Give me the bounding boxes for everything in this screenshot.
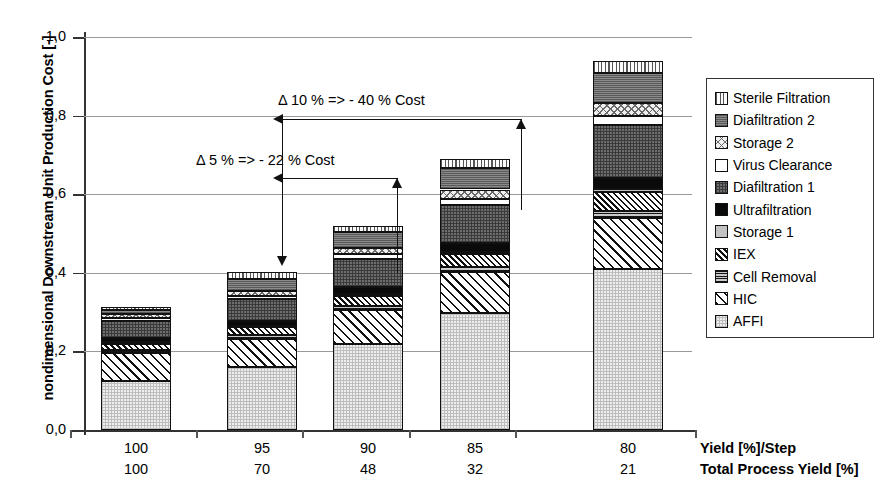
annotation-label-delta-10: Δ 10 % => - 40 % Cost <box>278 92 425 108</box>
bar-segment-virus-clearance[interactable] <box>593 116 663 125</box>
bar-segment-diafiltration-1[interactable] <box>227 299 297 321</box>
bar-segment-storage-1[interactable] <box>333 294 403 296</box>
annotation-2-horizontal-line <box>282 178 398 179</box>
bar-segment-diafiltration-2[interactable] <box>593 73 663 103</box>
bar-segment-hic[interactable] <box>440 272 510 312</box>
bar-stack[interactable] <box>440 159 510 430</box>
bar-segment-virus-clearance[interactable] <box>227 296 297 300</box>
bar-segment-iex[interactable] <box>593 192 663 210</box>
x-axis-tick-label-total-yield: 48 <box>328 461 408 477</box>
bar-segment-affi[interactable] <box>333 344 403 430</box>
bar-segment-sterile-filtration[interactable] <box>101 307 171 310</box>
bar-segment-storage-2[interactable] <box>101 314 171 318</box>
legend-swatch-icon <box>715 292 728 305</box>
bar-segment-diafiltration-1[interactable] <box>333 259 403 287</box>
bar-segment-diafiltration-2[interactable] <box>227 279 297 291</box>
bar-segment-ultrafiltration[interactable] <box>593 178 663 189</box>
x-axis-tick <box>196 430 198 438</box>
bar-segment-diafiltration-1[interactable] <box>593 125 663 178</box>
x-axis-tick-label-yield-step: 95 <box>222 440 302 456</box>
bar-segment-affi[interactable] <box>593 269 663 430</box>
bar-segment-diafiltration-2[interactable] <box>101 310 171 315</box>
annotation-label-delta-5: Δ 5 % => - 22 % Cost <box>196 152 335 168</box>
legend-item-label: Storage 2 <box>733 136 794 150</box>
legend-item[interactable]: Virus Clearance <box>715 154 868 176</box>
bar-segment-storage-1[interactable] <box>593 189 663 192</box>
legend-item-label: Diafiltration 1 <box>733 180 815 194</box>
bar-segment-storage-1[interactable] <box>440 252 510 254</box>
bar-segment-virus-clearance[interactable] <box>440 199 510 205</box>
bar-segment-diafiltration-2[interactable] <box>333 232 403 248</box>
bar-segment-ultrafiltration[interactable] <box>440 243 510 251</box>
legend-item[interactable]: Cell Removal <box>715 265 868 287</box>
bar-segment-affi[interactable] <box>227 367 297 430</box>
bar-segment-storage-2[interactable] <box>440 190 510 199</box>
y-axis-title: nondimensional Downstream Unit Productio… <box>40 18 56 418</box>
x-axis-tick <box>70 430 72 438</box>
bar-segment-affi[interactable] <box>440 313 510 430</box>
legend-item[interactable]: IEX <box>715 243 868 265</box>
bar-stack[interactable] <box>593 61 663 430</box>
x-axis-tick <box>302 430 304 438</box>
x-axis-tick-label-yield-step: 90 <box>328 440 408 456</box>
bar-stack[interactable] <box>101 307 171 430</box>
bar-segment-ultrafiltration[interactable] <box>101 338 171 342</box>
legend-item[interactable]: Sterile Filtration <box>715 87 868 109</box>
annotation-1-vertical-line <box>521 119 522 210</box>
x-axis-tick <box>695 430 697 438</box>
bar-segment-hic[interactable] <box>227 339 297 367</box>
legend-item-label: Diafiltration 2 <box>733 113 815 127</box>
x-axis-tick <box>409 430 411 438</box>
annotation-1-up-arrowhead <box>516 119 526 129</box>
bar-segment-iex[interactable] <box>333 296 403 306</box>
x-axis-tick <box>515 430 517 438</box>
x-axis-title-primary: Yield [%]/Step <box>700 440 796 456</box>
bar-segment-virus-clearance[interactable] <box>101 318 171 321</box>
bar-segment-hic[interactable] <box>101 353 171 381</box>
bar-segment-cell-removal[interactable] <box>101 350 171 353</box>
bar-segment-diafiltration-1[interactable] <box>101 321 171 338</box>
bar-segment-storage-2[interactable] <box>593 103 663 116</box>
legend-item[interactable]: Diafiltration 1 <box>715 176 868 198</box>
x-axis-tick-label-yield-step: 85 <box>435 440 515 456</box>
bar-segment-iex[interactable] <box>227 327 297 335</box>
bar-segment-sterile-filtration[interactable] <box>593 61 663 74</box>
legend-item[interactable]: Ultrafiltration <box>715 198 868 220</box>
legend-item[interactable]: Diafiltration 2 <box>715 109 868 131</box>
legend-box: Sterile FiltrationDiafiltration 2Storage… <box>706 78 874 338</box>
annotation-down-arrowhead <box>277 256 287 266</box>
bar-segment-cell-removal[interactable] <box>227 335 297 339</box>
bar-segment-cell-removal[interactable] <box>593 211 663 218</box>
bar-segment-hic[interactable] <box>593 218 663 269</box>
legend-item[interactable]: HIC <box>715 288 868 310</box>
bar-segment-ultrafiltration[interactable] <box>227 321 297 326</box>
bar-segment-diafiltration-1[interactable] <box>440 205 510 244</box>
annotation-shared-vertical-rail <box>282 119 283 256</box>
legend-item[interactable]: Storage 2 <box>715 132 868 154</box>
legend-item-label: AFFI <box>733 314 763 328</box>
bar-stack[interactable] <box>333 226 403 430</box>
x-axis-tick-label-total-yield: 21 <box>588 461 668 477</box>
bar-stack[interactable] <box>227 272 297 430</box>
bar-segment-storage-2[interactable] <box>333 248 403 255</box>
bar-segment-diafiltration-2[interactable] <box>440 168 510 190</box>
bar-segment-storage-2[interactable] <box>227 291 297 296</box>
bar-segment-iex[interactable] <box>101 344 171 350</box>
bar-segment-sterile-filtration[interactable] <box>333 226 403 232</box>
legend-swatch-icon <box>715 270 728 283</box>
legend-item[interactable]: AFFI <box>715 310 868 332</box>
bar-segment-sterile-filtration[interactable] <box>440 159 510 168</box>
bar-segment-sterile-filtration[interactable] <box>227 272 297 278</box>
bar-segment-cell-removal[interactable] <box>333 306 403 310</box>
bar-segment-ultrafiltration[interactable] <box>333 287 403 293</box>
bar-segment-iex[interactable] <box>440 254 510 267</box>
x-axis-title-secondary: Total Process Yield [%] <box>700 461 858 477</box>
bar-segment-virus-clearance[interactable] <box>333 254 403 259</box>
legend-item-label: HIC <box>733 292 757 306</box>
bar-segment-hic[interactable] <box>333 310 403 343</box>
x-axis-line <box>70 430 695 432</box>
legend-item-label: Ultrafiltration <box>733 203 812 217</box>
legend-item[interactable]: Storage 1 <box>715 221 868 243</box>
bar-segment-affi[interactable] <box>101 381 171 430</box>
bar-segment-cell-removal[interactable] <box>440 267 510 272</box>
